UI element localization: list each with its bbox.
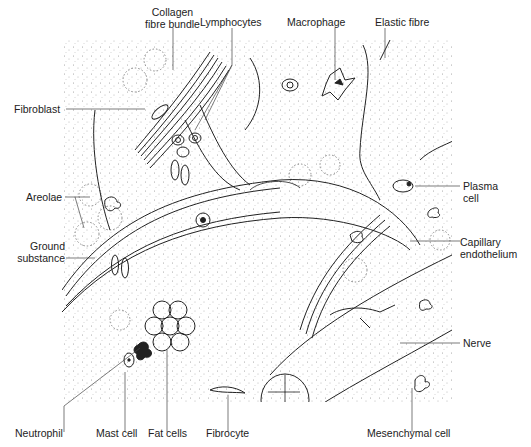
label-fibroblast: Fibroblast — [14, 103, 60, 115]
label-line: substance — [10, 252, 65, 264]
label-mast-cell: Mast cell — [96, 427, 137, 439]
diagram-illustration — [0, 0, 531, 447]
label-fat-cells: Fat cells — [148, 427, 187, 439]
label-lymphocytes: Lymphocytes — [200, 16, 261, 28]
label-line: Ground — [10, 240, 65, 252]
label-fibrocyte: Fibrocyte — [206, 427, 249, 439]
label-mesenchymal-cell: Mesenchymal cell — [367, 427, 450, 439]
label-line: Capillary — [460, 236, 517, 248]
label-elastic-fibre: Elastic fibre — [375, 16, 429, 28]
label-line: cell — [463, 192, 498, 204]
label-macrophage: Macrophage — [287, 16, 345, 28]
ground-substance-field — [62, 40, 452, 402]
connective-tissue-diagram: Collagen fibre bundle Lymphocytes Macrop… — [0, 0, 531, 447]
label-line: endothelium — [460, 248, 517, 260]
label-plasma-cell: Plasma cell — [463, 180, 498, 204]
label-areolae: Areolae — [26, 191, 62, 203]
label-neutrophil: Neutrophil — [15, 427, 63, 439]
label-capillary-endothelium: Capillary endothelium — [460, 236, 517, 260]
label-ground-substance: Ground substance — [10, 240, 65, 264]
label-nerve: Nerve — [463, 337, 491, 349]
label-line: Plasma — [463, 180, 498, 192]
